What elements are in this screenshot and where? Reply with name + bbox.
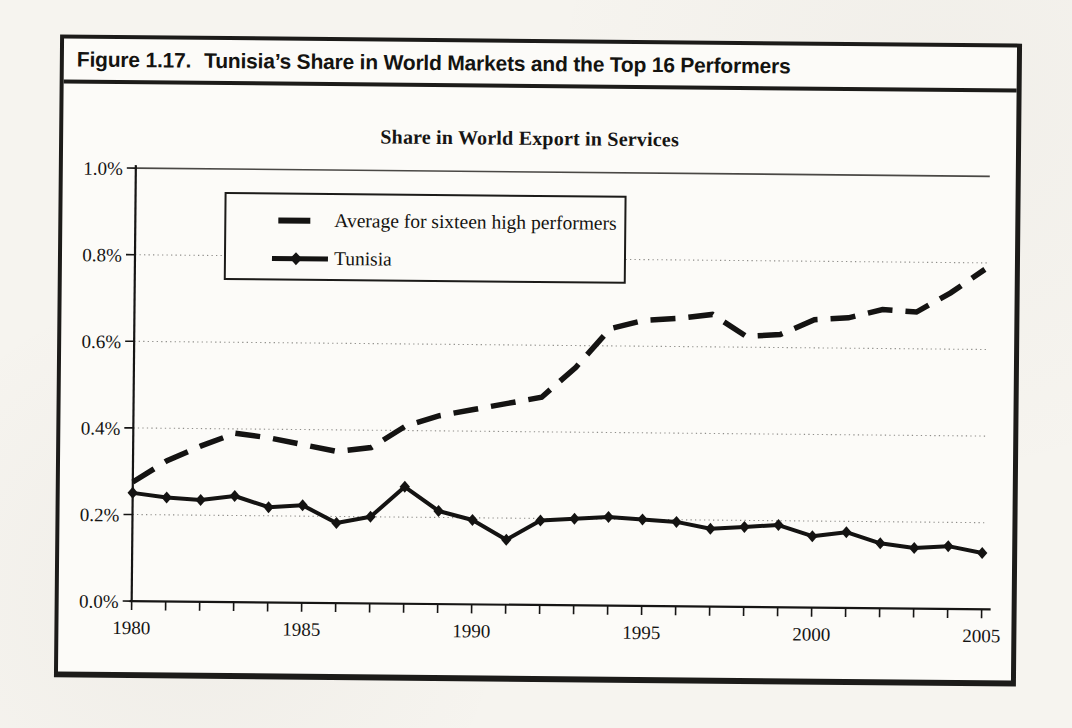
gridline: [134, 341, 988, 349]
x-tick-label: 2000: [792, 623, 830, 644]
plot-top-border: [136, 168, 990, 176]
y-tick-label: 0.8%: [82, 244, 122, 265]
diamond-marker: [671, 516, 682, 528]
diamond-marker: [943, 540, 954, 552]
dashed-line-icon: [248, 212, 332, 229]
y-tick-label: 0.2%: [80, 504, 120, 525]
diamond-marker: [773, 519, 784, 531]
figure-box: Figure 1.17.Tunisia’s Share in World Mar…: [54, 34, 1022, 686]
diamond-marker-line-icon: [248, 250, 332, 267]
diamond-marker: [263, 501, 274, 513]
diamond-marker: [331, 517, 342, 529]
diamond-marker: [875, 537, 886, 549]
figure-number-label: Figure 1.17.: [77, 48, 192, 72]
diamond-marker: [909, 542, 920, 554]
diamond-marker: [739, 521, 750, 533]
diamond-marker: [297, 499, 308, 511]
diamond-marker: [161, 491, 172, 503]
y-tick-label: 0.4%: [81, 417, 121, 438]
diamond-marker: [977, 547, 988, 559]
series-line-average: [133, 261, 985, 490]
legend-label-tunisia: Tunisia: [334, 248, 392, 271]
diamond-marker: [637, 513, 648, 525]
y-axis: [132, 165, 136, 602]
diamond-marker: [195, 494, 206, 506]
gridline: [133, 428, 987, 436]
legend-label-average: Average for sixteen high performers: [334, 210, 616, 235]
chart-title: Share in World Export in Services: [53, 122, 1006, 154]
y-tick-label: 1.0%: [83, 158, 123, 179]
page-background: { "figure": { "label": "Figure 1.17.", "…: [0, 0, 1072, 728]
series-line-tunisia: [132, 484, 983, 553]
legend-row-average: Average for sixteen high performers: [226, 201, 624, 243]
x-tick-label: 2005: [962, 625, 1000, 646]
figure-header: Figure 1.17.Tunisia’s Share in World Mar…: [64, 38, 1017, 92]
x-axis: [130, 601, 991, 609]
legend-box: Average for sixteen high performers Tuni…: [224, 192, 627, 284]
x-tick-label: 1990: [452, 620, 490, 641]
y-tick-label: 0.0%: [79, 591, 119, 612]
legend-row-tunisia: Tunisia: [226, 239, 624, 281]
diamond-marker: [705, 523, 716, 535]
diamond-marker: [127, 487, 138, 499]
diamond-marker: [569, 513, 580, 525]
y-tick-label: 0.6%: [81, 331, 121, 352]
x-tick-label: 1980: [112, 617, 150, 638]
diamond-marker: [807, 530, 818, 542]
x-tick-label: 1995: [622, 622, 660, 643]
x-tick-label: 1985: [282, 619, 320, 640]
diamond-marker: [841, 526, 852, 538]
diamond-marker: [603, 511, 614, 523]
figure-title: Tunisia’s Share in World Markets and the…: [204, 49, 790, 78]
diamond-marker: [229, 490, 240, 502]
